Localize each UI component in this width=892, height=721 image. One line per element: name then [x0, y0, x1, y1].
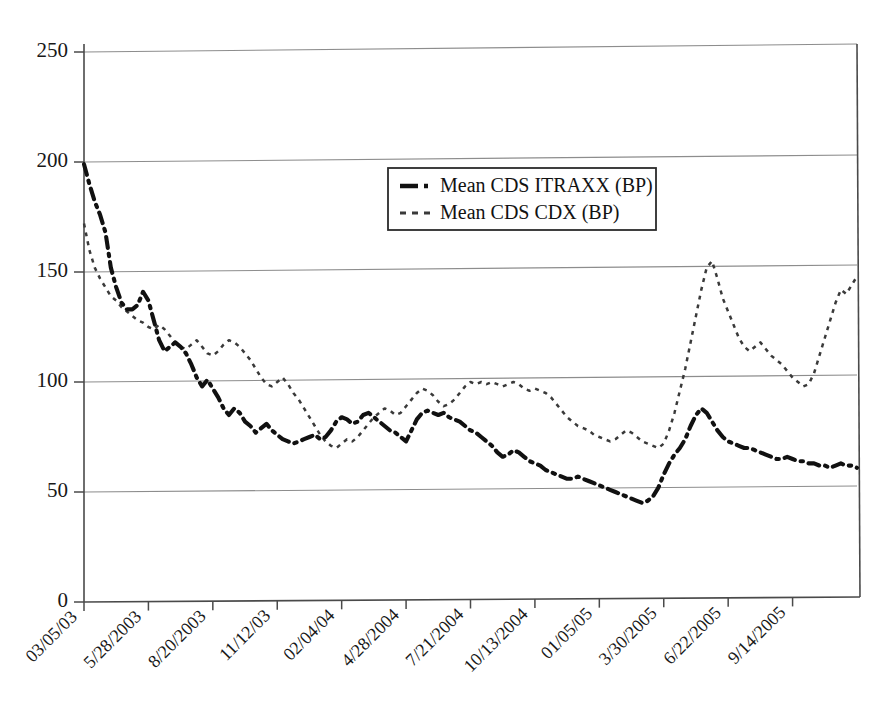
gridline-250	[84, 44, 857, 52]
x-axis: 03/05/035/28/20038/20/200311/12/0302/04/…	[21, 44, 860, 676]
gridline-200	[84, 155, 857, 162]
x-axis-line	[84, 597, 860, 602]
y-tick-label-150: 150	[37, 258, 69, 282]
y-axis: 250 200 150 100 50 0	[37, 38, 85, 612]
chart-svg: 250 200 150 100 50 0 03/05/035/28/20038/…	[0, 0, 892, 721]
cds-spread-line-chart: 250 200 150 100 50 0 03/05/035/28/20038/…	[0, 0, 892, 721]
y-tick-label-250: 250	[37, 38, 69, 62]
x-tick-label-8: 01/05/05	[537, 603, 596, 662]
x-tick-label-5: 4/28/2004	[337, 605, 403, 671]
x-tick-label-2: 8/20/2003	[144, 606, 210, 672]
x-tick-label-10: 6/22/2005	[659, 603, 725, 669]
legend-label-itraxx: Mean CDS ITRAXX (BP)	[440, 174, 653, 197]
x-tick-label-7: 10/13/2004	[460, 604, 532, 676]
plot-right-border	[857, 44, 860, 597]
x-tick-label-9: 3/30/2005	[595, 603, 661, 669]
gridlines	[84, 44, 857, 492]
x-tick-label-0: 03/05/03	[21, 607, 80, 666]
gridline-150	[84, 265, 857, 272]
x-tick-label-11: 9/14/2005	[724, 602, 790, 668]
y-tick-label-200: 200	[37, 148, 69, 172]
x-tick-label-4: 02/04/04	[279, 605, 338, 664]
legend-label-cdx: Mean CDS CDX (BP)	[440, 201, 619, 224]
legend: Mean CDS ITRAXX (BP) Mean CDS CDX (BP)	[388, 168, 656, 230]
gridline-50	[84, 486, 857, 492]
x-tick-label-3: 11/12/03	[215, 605, 274, 664]
x-tick-label-group: 03/05/035/28/20038/20/200311/12/0302/04/…	[21, 602, 789, 676]
y-tick-label-50: 50	[47, 478, 68, 502]
y-tick-label-100: 100	[37, 368, 69, 392]
x-tick-label-6: 7/21/2004	[402, 604, 468, 670]
series-line-cdx	[84, 224, 857, 448]
x-tick-label-1: 5/28/2003	[79, 606, 145, 672]
